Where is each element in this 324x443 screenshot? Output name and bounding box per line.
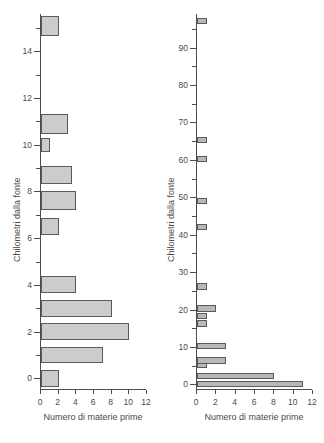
y-tick	[34, 98, 40, 99]
y-minor-tick	[36, 75, 40, 76]
x-tick	[58, 390, 59, 394]
y-tick-label: 12	[23, 93, 32, 103]
y-tick-label: 14	[23, 46, 32, 56]
chart-panel-right: 0102030405060708090 024681012 Numero di …	[158, 0, 324, 443]
y-tick	[190, 197, 196, 198]
y-tick-label: 20	[179, 305, 188, 315]
bar	[41, 191, 76, 210]
x-tick-label: 2	[55, 397, 60, 407]
y-tick-label: 60	[179, 155, 188, 165]
bar	[197, 224, 207, 230]
y-tick-label: 90	[179, 43, 188, 53]
y-minor-tick	[192, 29, 196, 30]
y-tick-label: 0	[183, 379, 188, 389]
y-tick-label: 10	[179, 342, 188, 352]
y-axis-title-left: Chilometri dalla fonte	[12, 177, 22, 262]
x-tick	[93, 390, 94, 394]
y-minor-tick	[192, 216, 196, 217]
y-minor-tick	[36, 308, 40, 309]
bar	[41, 323, 129, 340]
y-minor-tick	[192, 291, 196, 292]
y-tick	[34, 145, 40, 146]
y-minor-tick	[36, 28, 40, 29]
bar	[197, 320, 207, 327]
bar	[41, 370, 59, 387]
bar	[41, 138, 50, 152]
x-tick-label: 6	[91, 397, 96, 407]
y-tick-label: 6	[27, 233, 32, 243]
y-tick-label: 0	[27, 373, 32, 383]
x-tick-label: 8	[271, 397, 276, 407]
x-tick	[75, 390, 76, 394]
y-tick	[190, 122, 196, 123]
y-minor-tick	[36, 262, 40, 263]
bar	[197, 357, 226, 364]
x-tick	[312, 390, 313, 394]
bar	[197, 198, 207, 204]
bar	[41, 218, 59, 235]
y-tick	[190, 272, 196, 273]
y-minor-tick	[192, 328, 196, 329]
y-tick	[34, 51, 40, 52]
x-tick-label: 10	[124, 397, 133, 407]
y-tick	[190, 160, 196, 161]
y-tick	[190, 48, 196, 49]
y-minor-tick	[36, 215, 40, 216]
x-tick	[146, 390, 147, 394]
bar	[197, 343, 226, 349]
y-tick	[190, 384, 196, 385]
x-tick-label: 2	[213, 397, 218, 407]
x-tick	[196, 390, 197, 394]
y-tick-label: 80	[179, 80, 188, 90]
bar	[41, 276, 76, 293]
x-axis-title-left: Numero di materie prime	[40, 412, 146, 422]
y-tick-label: 30	[179, 267, 188, 277]
y-minor-tick	[192, 141, 196, 142]
x-tick-label: 12	[141, 397, 150, 407]
x-tick-label: 0	[38, 397, 43, 407]
y-tick	[34, 191, 40, 192]
y-minor-tick	[192, 179, 196, 180]
y-minor-tick	[192, 366, 196, 367]
bar	[197, 313, 207, 319]
y-axis-title-right: Chilometri dalla fonte	[166, 177, 176, 262]
bar	[197, 18, 207, 24]
bar	[41, 114, 68, 134]
x-tick	[111, 390, 112, 394]
y-tick-label: 4	[27, 280, 32, 290]
bar	[41, 16, 59, 36]
bar	[197, 156, 207, 162]
x-tick	[273, 390, 274, 394]
bar	[197, 305, 216, 312]
y-tick	[34, 332, 40, 333]
y-tick-label: 10	[23, 140, 32, 150]
bar	[197, 283, 207, 290]
y-minor-tick	[192, 104, 196, 105]
bar	[41, 300, 112, 317]
x-tick-label: 4	[232, 397, 237, 407]
y-minor-tick	[36, 355, 40, 356]
bar	[41, 166, 72, 185]
x-tick-label: 12	[307, 397, 316, 407]
x-tick	[215, 390, 216, 394]
x-tick-label: 6	[252, 397, 257, 407]
y-tick-label: 8	[27, 186, 32, 196]
x-tick	[128, 390, 129, 394]
x-tick	[254, 390, 255, 394]
y-minor-tick	[192, 253, 196, 254]
y-tick-label: 70	[179, 117, 188, 127]
bar	[197, 373, 274, 379]
y-minor-tick	[192, 66, 196, 67]
plot-area-left: 02468101214 024681012 Numero di materie …	[40, 14, 146, 390]
x-axis-title-right: Numero di materie prime	[196, 412, 312, 422]
y-tick-label: 2	[27, 327, 32, 337]
y-minor-tick	[36, 168, 40, 169]
x-tick-label: 10	[288, 397, 297, 407]
x-tick-label: 0	[194, 397, 199, 407]
two-panel-bar-chart-figure: 02468101214 024681012 Numero di materie …	[0, 0, 324, 443]
y-tick-label: 50	[179, 192, 188, 202]
x-tick	[235, 390, 236, 394]
y-minor-tick	[36, 121, 40, 122]
y-tick	[34, 238, 40, 239]
y-tick	[34, 285, 40, 286]
